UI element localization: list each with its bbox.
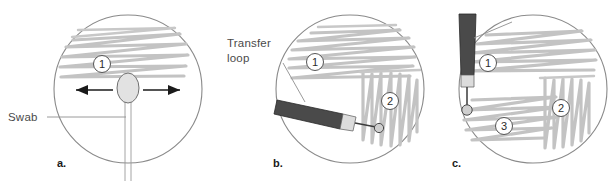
transfer-loop-label-line1: Transfer <box>227 37 271 49</box>
callout-number-1-b: 1 <box>312 56 318 68</box>
callout-3-c: 3 <box>496 118 513 135</box>
callout-number-1-c: 1 <box>485 57 491 69</box>
callout-2-b: 2 <box>382 93 399 110</box>
callout-number-2-b: 2 <box>387 95 393 107</box>
loop-handle-c <box>459 14 476 75</box>
swab-tip <box>117 73 139 103</box>
swab-label: Swab <box>8 111 38 123</box>
panel-letter-a: a. <box>57 157 66 169</box>
loop-ferrule-b <box>340 114 356 131</box>
panel-a: Swab 1 a. <box>8 15 202 181</box>
callout-1-b: 1 <box>307 54 324 71</box>
callout-1-c: 1 <box>480 55 497 72</box>
panel-b: Transfer loop 1 2 b. <box>227 15 424 169</box>
loop-ring-c <box>462 105 472 115</box>
transfer-loop-label-line2: loop <box>227 52 250 64</box>
callout-number-2-c: 2 <box>558 102 564 114</box>
loop-ferrule-c <box>461 75 474 87</box>
callout-number-3-c: 3 <box>501 120 507 132</box>
figure-canvas: Swab 1 a. <box>0 0 615 181</box>
callout-1-a: 1 <box>94 56 111 73</box>
callout-number-1-a: 1 <box>99 58 105 70</box>
panel-c: 1 2 3 c. <box>452 14 607 169</box>
callout-2-c: 2 <box>553 100 570 117</box>
panel-letter-b: b. <box>273 157 283 169</box>
streak-plate-figure: Swab 1 a. <box>0 0 615 181</box>
loop-ring-b <box>374 123 383 132</box>
panel-letter-c: c. <box>452 157 461 169</box>
